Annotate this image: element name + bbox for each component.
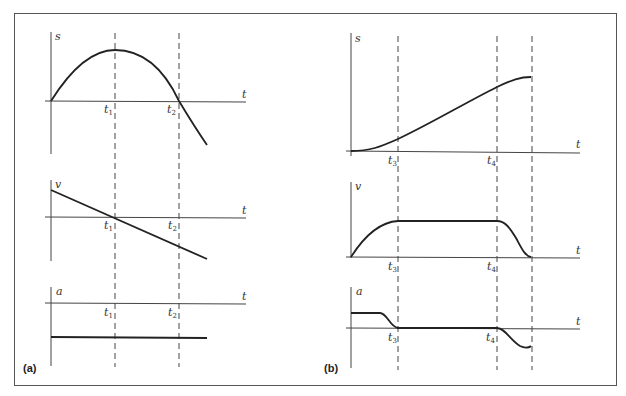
figure-frame bbox=[15, 14, 617, 386]
graph-a-velocity: v t t1 t2 bbox=[45, 178, 247, 261]
y-axis-label: v bbox=[55, 178, 62, 191]
t-axis bbox=[346, 151, 580, 153]
y-axis-label: v bbox=[355, 180, 362, 193]
graph-b-displacement: s t t3 t4 bbox=[346, 32, 581, 168]
panel-b: s t t3 t4 v t t3 t4 a t t3 t4 (b) bbox=[324, 32, 581, 374]
t1-label: t1 bbox=[104, 306, 113, 320]
t-axis-label: t bbox=[242, 88, 247, 101]
y-axis-label: s bbox=[55, 30, 61, 43]
t-axis-label: t bbox=[576, 315, 581, 328]
t3-label: t3 bbox=[388, 154, 397, 168]
v-line bbox=[51, 190, 207, 259]
t-axis bbox=[45, 217, 246, 218]
graph-b-velocity: v t t3 t4 bbox=[346, 180, 581, 274]
graph-a-displacement: s t t1 t2 bbox=[45, 30, 247, 154]
t-axis bbox=[346, 257, 580, 258]
t-axis bbox=[45, 303, 246, 304]
t4-label: t4 bbox=[486, 331, 495, 345]
panel-b-label: (b) bbox=[324, 362, 338, 374]
graph-b-acceleration: a t t3 t4 bbox=[346, 285, 581, 368]
s-curve bbox=[351, 77, 531, 151]
y-axis-label: a bbox=[56, 285, 63, 298]
t3-label: t3 bbox=[388, 331, 397, 345]
t2-label: t2 bbox=[168, 219, 177, 233]
t-axis-label: t bbox=[242, 290, 247, 303]
v-curve bbox=[351, 221, 531, 257]
motion-graphs-figure: s t t1 t2 v t t1 t2 a t t1 t2 (a) bbox=[0, 0, 626, 396]
a-line bbox=[51, 337, 207, 338]
t1-label: t1 bbox=[104, 219, 113, 233]
t4-label: t4 bbox=[487, 154, 496, 168]
t3-label: t3 bbox=[388, 260, 397, 274]
s-curve bbox=[51, 50, 207, 145]
t4-label: t4 bbox=[487, 260, 496, 274]
t-axis-label: t bbox=[576, 138, 581, 151]
t2-label: t2 bbox=[167, 103, 176, 117]
y-axis-label: s bbox=[355, 32, 361, 45]
panel-a-label: (a) bbox=[23, 362, 37, 374]
t-axis-label: t bbox=[576, 244, 581, 257]
t1-label: t1 bbox=[104, 103, 113, 117]
panel-a: s t t1 t2 v t t1 t2 a t t1 t2 (a) bbox=[23, 30, 247, 374]
t2-label: t2 bbox=[168, 306, 177, 320]
graph-a-acceleration: a t t1 t2 bbox=[45, 285, 247, 366]
y-axis-label: a bbox=[356, 285, 363, 298]
a-curve bbox=[351, 313, 531, 348]
t-axis-label: t bbox=[242, 204, 247, 217]
t-axis bbox=[45, 101, 246, 102]
